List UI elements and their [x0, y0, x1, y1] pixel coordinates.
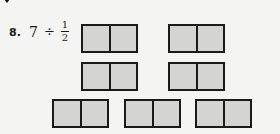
whole-box: [81, 24, 138, 53]
fraction-numerator: 1: [62, 20, 68, 30]
whole-box: [52, 99, 109, 128]
fraction-denominator: 2: [62, 33, 68, 43]
half-part: [170, 64, 196, 89]
half-part: [109, 64, 137, 89]
half-part: [197, 101, 223, 126]
whole-box: [168, 24, 225, 53]
half-part: [152, 101, 180, 126]
half-part: [80, 101, 108, 126]
divide-operator: ÷: [44, 24, 55, 39]
half-part: [196, 26, 224, 51]
arrow-down-icon: [0, 0, 14, 3]
half-part: [83, 64, 109, 89]
whole-box: [124, 99, 181, 128]
whole-box: [168, 62, 225, 91]
half-part: [126, 101, 152, 126]
dividend: 7: [29, 24, 38, 40]
half-part: [196, 64, 224, 89]
half-part: [83, 26, 109, 51]
half-part: [109, 26, 137, 51]
whole-box: [195, 99, 252, 128]
division-expression: 7 ÷ 1 2: [29, 20, 69, 43]
half-part: [54, 101, 80, 126]
half-part: [170, 26, 196, 51]
problem-number: 8.: [9, 26, 21, 39]
whole-box: [81, 62, 138, 91]
divisor-fraction: 1 2: [61, 20, 69, 43]
half-part: [223, 101, 251, 126]
